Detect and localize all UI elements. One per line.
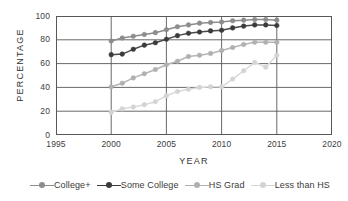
series-less-than-hs <box>109 53 279 115</box>
x-tick-2005: 2005 <box>149 140 183 149</box>
legend-label: Less than HS <box>275 180 330 190</box>
x-tick-2020: 2020 <box>315 140 348 149</box>
y-axis-title: PERCENTAGE <box>15 18 25 112</box>
vertical-gridlines <box>111 16 277 135</box>
chart-legend: College+Some CollegeHS GradLess than HS <box>30 177 330 193</box>
legend-item-less-than-hs[interactable]: Less than HS <box>251 180 330 190</box>
legend-marker-icon <box>185 180 209 190</box>
legend-item-some-college[interactable]: Some College <box>97 180 179 190</box>
x-tick-2015: 2015 <box>260 140 294 149</box>
y-tick-100: 100 <box>24 12 50 21</box>
y-tick-60: 60 <box>24 59 50 68</box>
legend-marker-icon <box>251 180 275 190</box>
chart-canvas <box>0 0 348 201</box>
legend-marker-icon <box>97 180 121 190</box>
chart-figure: 100806040200 199520002005201020152020 PE… <box>0 0 348 201</box>
legend-label: College+ <box>54 180 91 190</box>
data-series-layer <box>109 17 279 114</box>
x-tick-2010: 2010 <box>205 140 239 149</box>
legend-item-college-[interactable]: College+ <box>30 180 91 190</box>
y-tick-80: 80 <box>24 35 50 44</box>
legend-label: HS Grad <box>209 180 245 190</box>
x-axis-title: YEAR <box>56 156 332 166</box>
y-tick-20: 20 <box>24 107 50 116</box>
legend-marker-icon <box>30 180 54 190</box>
legend-item-hs-grad[interactable]: HS Grad <box>185 180 245 190</box>
legend-label: Some College <box>121 180 179 190</box>
horizontal-gridlines <box>56 40 332 111</box>
x-tick-1995: 1995 <box>39 140 73 149</box>
x-tick-2000: 2000 <box>94 140 128 149</box>
y-tick-40: 40 <box>24 83 50 92</box>
